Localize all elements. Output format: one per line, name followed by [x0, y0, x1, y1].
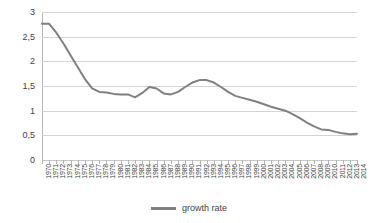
y-tick-label: 2,5: [22, 32, 35, 41]
x-tick-label: 1994: [217, 164, 224, 179]
x-tick-label: 2012: [346, 164, 353, 179]
x-tick-label: 2000: [260, 164, 267, 179]
x-tick-label: 1986: [160, 164, 167, 179]
x-tick-label: 1973: [66, 164, 73, 179]
y-tick-label: 2: [30, 57, 35, 66]
chart-legend: growth rate: [0, 200, 378, 216]
x-tick-label: 1985: [152, 164, 159, 179]
x-tick-label: 1992: [203, 164, 210, 179]
x-tick-label: 1974: [74, 164, 81, 179]
x-tick-label: 2001: [267, 164, 274, 179]
series-layer: [42, 12, 357, 160]
x-tick-label: 1979: [109, 164, 116, 179]
x-tick-label: 1989: [181, 164, 188, 179]
x-tick-label: 1975: [81, 164, 88, 179]
x-axis-labels: 1970197119721973197419751976197719781979…: [42, 164, 357, 196]
x-tick-label: 1998: [245, 164, 252, 179]
x-tick-label: 1987: [167, 164, 174, 179]
y-tick-label: 0,5: [22, 131, 35, 140]
x-tick-label: 2005: [296, 164, 303, 179]
x-tick-label: 1970: [45, 164, 52, 179]
x-tick-label: 1982: [131, 164, 138, 179]
x-tick-label: 1981: [124, 164, 131, 179]
x-tick-label: 2010: [331, 164, 338, 179]
x-tick-label: 1993: [210, 164, 217, 179]
x-tick-label: 1980: [117, 164, 124, 179]
y-tick-label: 1,5: [22, 82, 35, 91]
x-tick-label: 1988: [174, 164, 181, 179]
x-tick-label: 2014: [360, 164, 367, 179]
x-tick-label: 2013: [353, 164, 360, 179]
x-tick-label: 1995: [224, 164, 231, 179]
x-tick-label: 1999: [253, 164, 260, 179]
plot-area: [42, 12, 357, 160]
line-chart: 00,511,522,53 19701971197219731974197519…: [0, 0, 378, 223]
x-tick-label: 2004: [288, 164, 295, 179]
x-tick-label: 1976: [88, 164, 95, 179]
y-tick-label: 1: [30, 106, 35, 115]
x-tick-label: 1983: [138, 164, 145, 179]
series-line-growth-rate: [42, 24, 357, 135]
x-tick-label: 2008: [317, 164, 324, 179]
x-tick-label: 2011: [339, 164, 346, 178]
y-tick-label: 3: [30, 8, 35, 17]
legend-label-growth-rate: growth rate: [182, 203, 227, 213]
y-tick-label: 0: [30, 156, 35, 165]
y-axis-labels: 00,511,522,53: [0, 0, 40, 223]
x-tick-label: 2006: [303, 164, 310, 179]
x-tick-label: 2007: [310, 164, 317, 179]
legend-swatch-growth-rate: [151, 207, 176, 210]
x-tick-label: 1991: [195, 164, 202, 179]
